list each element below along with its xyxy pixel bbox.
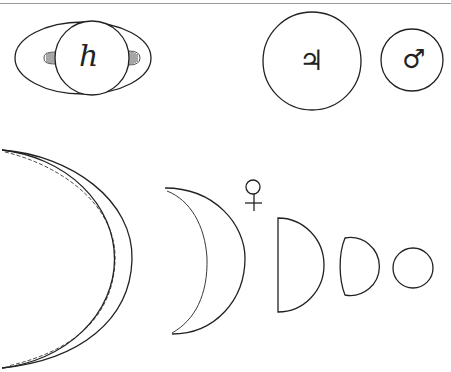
venus-phase-full bbox=[393, 248, 433, 288]
mars-symbol-icon: ♂ bbox=[402, 44, 425, 74]
saturn-ring-hatch-left bbox=[44, 52, 55, 64]
jupiter-symbol-icon: ♃ bbox=[299, 44, 324, 77]
saturn-ring-hatch-right bbox=[129, 51, 140, 65]
venus-phase-crescent-medium bbox=[165, 188, 245, 334]
planet-diagram bbox=[0, 0, 451, 372]
venus-phase-gibbous bbox=[340, 238, 379, 296]
saturn-symbol-icon: h bbox=[79, 38, 98, 73]
venus-phase-crescent-large bbox=[2, 150, 132, 368]
venus-symbol-icon bbox=[245, 180, 262, 211]
venus-phase-half bbox=[278, 218, 324, 312]
